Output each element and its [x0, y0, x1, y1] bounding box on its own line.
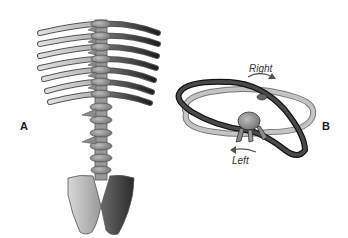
pelvis [68, 175, 134, 234]
costal-joint-marker [257, 94, 267, 100]
panel-a-spine [40, 20, 158, 235]
panel-b-rib-rotation: Right Left [179, 63, 314, 166]
anatomy-diagram: Right Left [0, 0, 348, 238]
left-rotation-arrow [233, 149, 256, 152]
right-label: Right [249, 63, 274, 74]
panel-label-b: B [322, 120, 330, 132]
panel-label-a: A [20, 120, 28, 132]
left-arrow-head [230, 146, 236, 154]
vertebral-column [82, 20, 112, 180]
vertebra-b [236, 112, 267, 142]
right-rotation-arrow [248, 74, 271, 77]
left-label: Left [232, 155, 250, 166]
